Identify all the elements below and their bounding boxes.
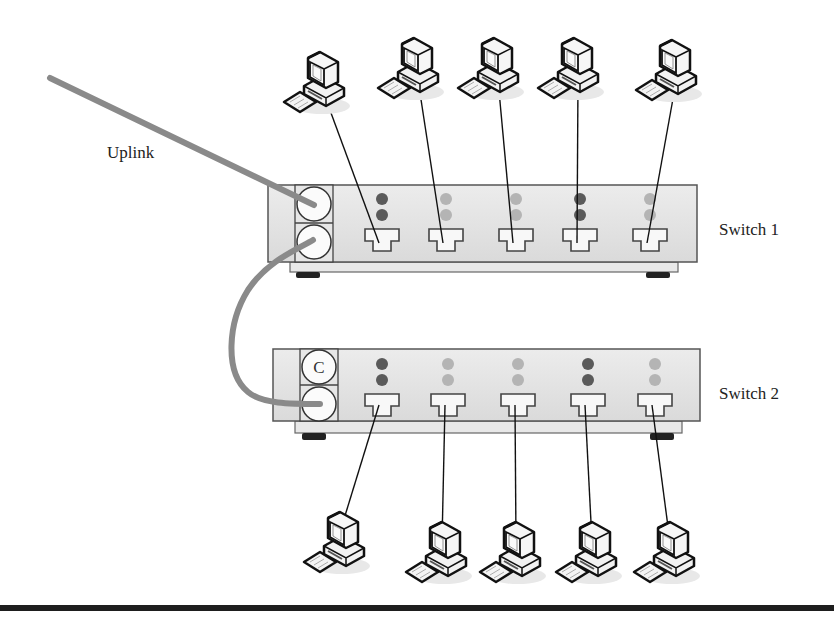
switch-2-led-4-a <box>582 358 594 370</box>
switch-1-label: Switch 1 <box>719 220 779 240</box>
switch-2-led-2-a <box>442 358 454 370</box>
switch-1-foot-right <box>646 272 670 278</box>
switch-2-led-4-b <box>582 374 594 386</box>
computer-bottom-5 <box>634 522 700 584</box>
switch-1-led-5-b <box>644 209 656 221</box>
switch-2-led-1-b <box>376 374 388 386</box>
switch-1-foot-left <box>296 272 320 278</box>
switch-1-link-4 <box>577 80 578 243</box>
uplink-label: Uplink <box>107 143 154 163</box>
network-diagram: C <box>0 0 834 628</box>
bottom-rule <box>0 605 834 611</box>
switch-1-led-1-a <box>376 193 388 205</box>
switch-2-led-3-a <box>512 358 524 370</box>
switch-2: C <box>273 349 700 440</box>
computer-top-3 <box>458 38 524 100</box>
switch-1-led-4-a <box>574 193 586 205</box>
switch-2-foot-right <box>650 433 674 440</box>
switch-1-led-2-b <box>440 209 452 221</box>
computer-top-4 <box>538 38 604 100</box>
switch-2-led-5-b <box>649 374 661 386</box>
switch-2-label: Switch 2 <box>719 384 779 404</box>
computer-top-5 <box>636 40 702 102</box>
switch-2-foot-left <box>302 433 326 440</box>
switch-1-led-1-b <box>376 209 388 221</box>
computer-top-2 <box>378 38 444 100</box>
switch-2-led-3-b <box>512 374 524 386</box>
computer-top-1 <box>284 52 350 114</box>
computer-bottom-3 <box>480 522 546 584</box>
switch-2-led-2-b <box>442 374 454 386</box>
computer-bottom-2 <box>406 522 472 584</box>
switch-2-led-5-a <box>649 358 661 370</box>
switch-1 <box>268 185 697 278</box>
switch-1-led-2-a <box>440 193 452 205</box>
switch-2-port-letter: C <box>313 358 324 377</box>
switch-1-led-4-b <box>574 209 586 221</box>
computer-bottom-4 <box>556 522 622 584</box>
switch-1-led-3-b <box>510 209 522 221</box>
uplink-cable <box>50 78 314 205</box>
computer-bottom-1 <box>304 512 370 574</box>
switch-1-led-3-a <box>510 193 522 205</box>
switch-2-led-1-a <box>376 358 388 370</box>
